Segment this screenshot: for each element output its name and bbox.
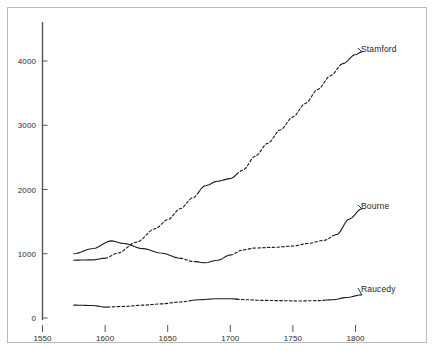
x-tick-label-1550: 1550 xyxy=(33,334,51,343)
x-tick-label-1700: 1700 xyxy=(221,334,239,343)
series-path-bourne xyxy=(74,241,180,258)
series-path-bourne xyxy=(180,258,195,261)
y-tick-label-3000: 3000 xyxy=(8,121,36,130)
y-tick-label-1000: 1000 xyxy=(8,249,36,258)
y-tick-label-4000: 4000 xyxy=(8,57,36,66)
x-tick-label-1800: 1800 xyxy=(346,334,364,343)
x-tick-label-1650: 1650 xyxy=(159,334,177,343)
series-path-bourne xyxy=(195,255,230,263)
series-path-stamford xyxy=(105,192,199,259)
series-path-stamford xyxy=(199,174,237,191)
series-label-stamford: Stamford xyxy=(361,44,397,54)
x-tick-label-1750: 1750 xyxy=(284,334,302,343)
series-path-stamford xyxy=(74,258,105,260)
series-path-raucedy xyxy=(108,301,191,307)
series-path-raucedy xyxy=(237,299,325,301)
series-label-raucedy: Raucedy xyxy=(361,284,396,294)
population-line-chart: 4000 3000 2000 1000 0 1550 1600 1650 170… xyxy=(0,0,435,351)
y-tick-label-0: 0 xyxy=(8,314,36,323)
y-tick-label-2000: 2000 xyxy=(8,185,36,194)
series-label-leader-lines xyxy=(358,48,362,295)
y-axis-ticks xyxy=(43,61,48,318)
series-path-raucedy xyxy=(324,295,362,300)
series-path-raucedy xyxy=(190,299,236,301)
series-path-bourne xyxy=(230,236,333,255)
series-label-bourne: Bourne xyxy=(361,201,389,211)
series-path-stamford xyxy=(340,52,361,65)
series-path-stamford xyxy=(237,65,341,175)
x-tick-label-1600: 1600 xyxy=(96,334,114,343)
series-lines xyxy=(74,52,362,307)
x-axis-ticks xyxy=(43,325,356,332)
series-path-bourne xyxy=(333,209,362,236)
series-path-raucedy xyxy=(74,305,108,307)
